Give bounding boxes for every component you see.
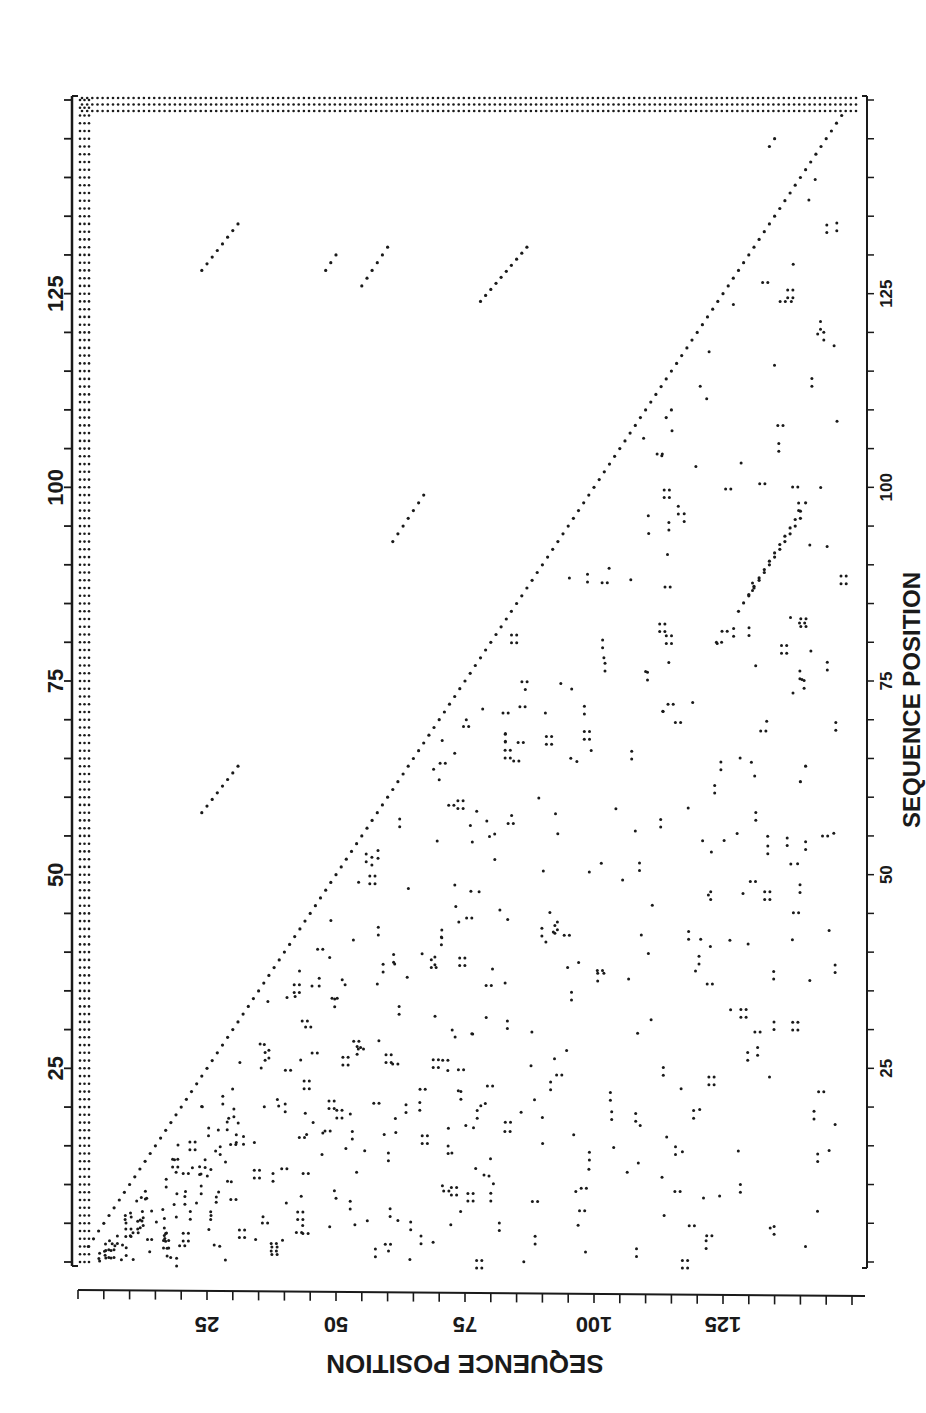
- left-tick-label: 50: [43, 862, 68, 886]
- bottom-tick-label: 125: [705, 1312, 742, 1337]
- right-tick-label: 75: [877, 672, 896, 691]
- lower-triangle-dots: [97, 178, 847, 1270]
- bottom-tick-label: 75: [453, 1312, 477, 1337]
- plot-frame: [72, 96, 867, 1296]
- bottom-tick-label: 50: [324, 1312, 348, 1337]
- right-tick-label: 125: [877, 279, 896, 307]
- right-tick-label: 100: [877, 473, 896, 501]
- bottom-tick-label: 25: [195, 1312, 219, 1337]
- left-tick-label: 100: [43, 469, 68, 506]
- dot-matrix-plot: 255075100125255075100125255075100125SEQU…: [0, 0, 926, 1413]
- left-tick-label: 75: [43, 669, 68, 693]
- edge-stripe-dots: [79, 97, 858, 1264]
- right-axis-title: SEQUENCE POSITION: [898, 572, 925, 828]
- left-tick-label: 125: [43, 275, 68, 312]
- left-tick-label: 25: [43, 1056, 68, 1080]
- right-tick-label: 25: [877, 1059, 896, 1078]
- axis-ticks: [64, 100, 874, 1305]
- bottom-tick-label: 100: [576, 1312, 613, 1337]
- bottom-axis-title: SEQUENCE POSITION: [326, 1349, 603, 1379]
- right-tick-label: 50: [877, 865, 896, 884]
- main-diagonal-dots: [87, 114, 844, 1248]
- axis-labels: 255075100125255075100125255075100125SEQU…: [43, 275, 926, 1379]
